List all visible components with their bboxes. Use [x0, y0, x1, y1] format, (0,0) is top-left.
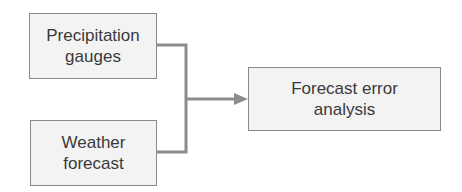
edge-precipitation	[157, 45, 186, 99]
edge-weather	[157, 99, 186, 152]
arrow-head-icon	[234, 93, 248, 105]
node-label-line1: Weather	[62, 132, 126, 153]
node-precipitation-gauges: Precipitation gauges	[29, 13, 157, 79]
node-label-line2: gauges	[46, 46, 140, 67]
node-label-line2: analysis	[291, 99, 398, 120]
node-label-line2: forecast	[62, 153, 126, 174]
node-label-line1: Precipitation	[46, 25, 140, 46]
node-forecast-error-analysis: Forecast error analysis	[248, 67, 441, 131]
node-weather-forecast: Weather forecast	[30, 120, 157, 186]
node-label-line1: Forecast error	[291, 78, 398, 99]
